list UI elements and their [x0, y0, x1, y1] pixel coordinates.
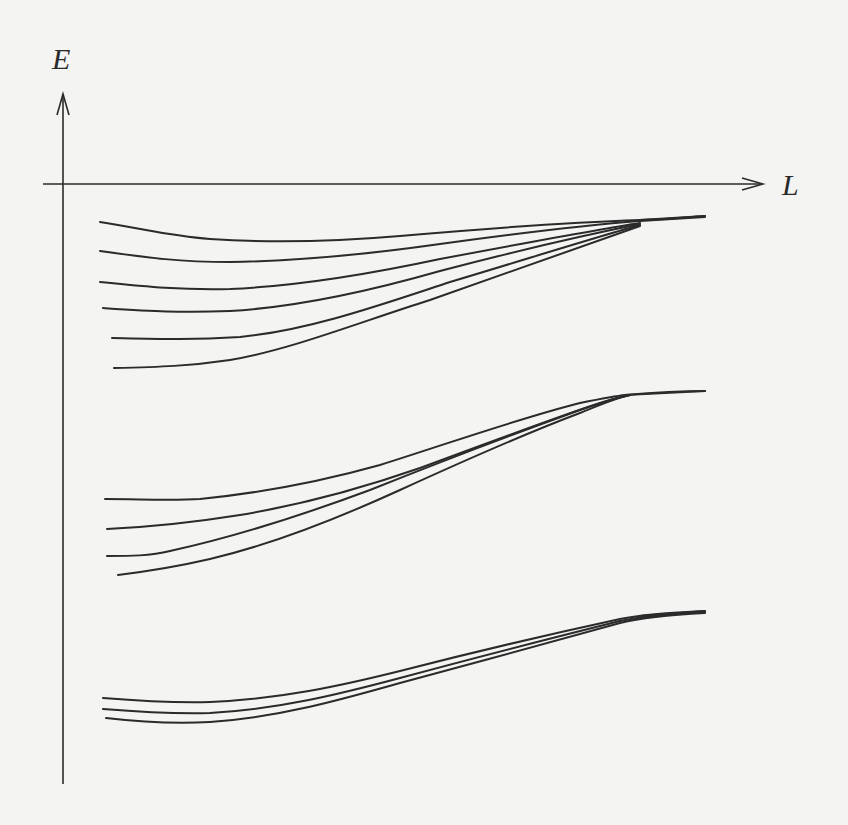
y-axis-label: E [52, 44, 70, 74]
curve-bands [100, 216, 705, 723]
middle-band-curve-4 [118, 395, 630, 575]
x-axis-label: L [782, 170, 799, 200]
y-axis [57, 94, 69, 784]
lower-band-curve-2 [103, 612, 705, 713]
middle-band-curve-1 [105, 391, 705, 500]
energy-level-diagram: E L [0, 0, 848, 825]
upper-band-curve-3 [100, 223, 640, 289]
middle-band [105, 391, 705, 575]
diagram-canvas [0, 0, 848, 825]
upper-band [100, 216, 705, 368]
middle-band-curve-2 [107, 395, 630, 529]
lower-band [103, 611, 705, 723]
upper-band-curve-2 [100, 217, 705, 262]
x-axis [43, 178, 763, 190]
lower-band-curve-3 [106, 613, 705, 723]
